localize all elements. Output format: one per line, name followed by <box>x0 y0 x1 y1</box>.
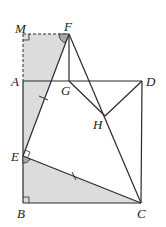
label-b: B <box>17 206 25 221</box>
label-c: C <box>137 206 146 221</box>
label-m: M <box>14 21 27 36</box>
segment-fc <box>69 34 141 203</box>
label-h: H <box>92 117 103 132</box>
segment-dh <box>105 81 142 116</box>
label-e: E <box>10 149 19 164</box>
label-f: F <box>63 19 73 34</box>
segment-gh <box>69 81 105 116</box>
segment-dc <box>141 81 142 203</box>
geometry-diagram: M F A G D H E B C <box>0 0 166 227</box>
label-g: G <box>61 83 71 98</box>
label-a: A <box>10 74 19 89</box>
label-d: D <box>145 74 156 89</box>
right-angle-e <box>25 150 30 157</box>
